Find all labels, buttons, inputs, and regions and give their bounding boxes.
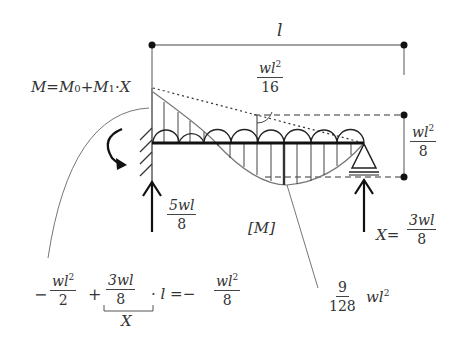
- leader-M-equation: [48, 108, 149, 258]
- label-wl2-over-16: wl2 16: [257, 60, 283, 94]
- right-reaction-label: 3wl 8: [407, 213, 436, 246]
- moment-arrow-icon: [108, 129, 127, 170]
- label-wl2-over-8: wl2 8: [410, 124, 436, 158]
- right-reaction-arrow: [355, 180, 373, 232]
- right-reaction-prefix: X=: [376, 228, 399, 243]
- max-moment-suffix: wl2: [366, 289, 389, 305]
- bottom-eq-dot-l: · l =−: [151, 287, 195, 302]
- distributed-load: [153, 130, 364, 144]
- span-label: l: [277, 22, 282, 39]
- moment-diagram-label: [M]: [248, 221, 275, 236]
- max-moment-label: 9 128: [329, 280, 356, 313]
- bottom-eq-term3: wl2 8: [214, 273, 240, 307]
- roller-support: [349, 144, 379, 175]
- bottom-eq-minus: −: [34, 287, 47, 303]
- moment-superposition-equation: M=M0+M1·X: [31, 80, 130, 95]
- moment-dimension-right: [254, 112, 408, 181]
- left-reaction-arrow: [143, 182, 161, 232]
- bottom-eq-term1: wl2 2: [50, 273, 76, 307]
- fixed-support-wall: [140, 88, 152, 205]
- leader-max-moment: [287, 185, 318, 288]
- left-reaction-label: 5wl 8: [167, 198, 196, 231]
- bottom-eq-term2: 3wl 8: [106, 273, 135, 306]
- bracket-X-label: X: [121, 314, 132, 329]
- bottom-eq-plus: +: [88, 287, 101, 303]
